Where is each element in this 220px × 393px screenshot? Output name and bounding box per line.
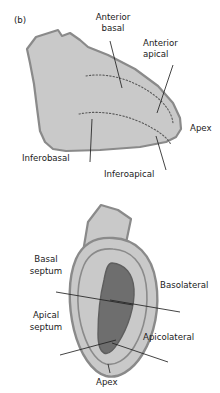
label-inferoapical: Inferoapical	[104, 169, 154, 179]
lower-heart-view: Basal septum Apical septum Basolateral A…	[30, 205, 209, 387]
panel-tag-b: (b)	[14, 15, 26, 25]
label-anterior-basal-line2: basal	[102, 23, 125, 33]
upper-heart-view: Anterior basal Anterior apical Apex Infe…	[22, 12, 212, 179]
label-anterior-basal-line1: Anterior	[96, 12, 131, 22]
label-basal-septum-line2: septum	[30, 266, 62, 276]
label-apical-septum-line2: septum	[30, 322, 62, 332]
label-basal-septum-line1: Basal	[34, 254, 57, 264]
label-apex-lower: Apex	[96, 377, 118, 387]
label-inferobasal: Inferobasal	[22, 153, 70, 163]
figure-container: (b) Anterior basal Anterior apical Apex …	[0, 0, 220, 393]
label-apex-upper: Apex	[190, 123, 212, 133]
label-anterior-apical-line2: apical	[143, 49, 169, 59]
label-anterior-apical-line1: Anterior	[143, 38, 178, 48]
cardiac-segment-diagram: (b) Anterior basal Anterior apical Apex …	[0, 0, 220, 393]
label-apical-septum-line1: Apical	[33, 310, 59, 320]
label-apicolateral: Apicolateral	[143, 332, 194, 342]
label-basolateral: Basolateral	[160, 280, 208, 290]
